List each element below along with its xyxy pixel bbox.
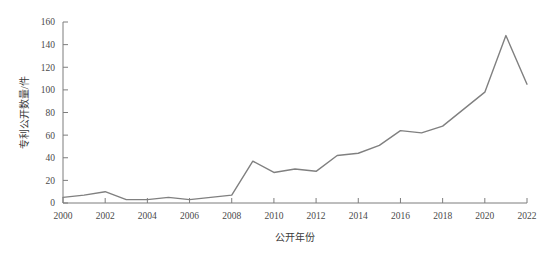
y-tick-label: 0 — [50, 198, 55, 208]
x-tick-label: 2018 — [433, 211, 452, 221]
x-tick-label: 2000 — [54, 211, 73, 221]
series-polyline — [63, 36, 527, 200]
chart-canvas: 020406080100120140160 200020022004200620… — [0, 0, 544, 258]
x-tick-label: 2004 — [138, 211, 157, 221]
y-tick-label: 100 — [41, 85, 56, 95]
y-tick-label: 40 — [46, 153, 56, 163]
x-tick-label: 2010 — [264, 211, 283, 221]
x-tick-label: 2020 — [475, 211, 494, 221]
y-tick-label: 120 — [41, 63, 56, 73]
x-tick-label: 2012 — [307, 211, 326, 221]
x-tick-label: 2022 — [518, 211, 537, 221]
y-tick-label: 20 — [46, 176, 56, 186]
y-tick-label: 160 — [41, 17, 56, 27]
y-axis-title: 专利公开数量/件 — [18, 76, 30, 149]
x-tick-label: 2006 — [180, 211, 199, 221]
y-tick-label: 140 — [41, 40, 56, 50]
y-axis: 020406080100120140160 — [41, 17, 68, 208]
x-axis: 2000200220042006200820102012201420162018… — [54, 198, 537, 221]
x-tick-label: 2002 — [96, 211, 115, 221]
patent-disclosure-line-chart: 020406080100120140160 200020022004200620… — [0, 0, 544, 258]
x-tick-label: 2008 — [222, 211, 241, 221]
y-tick-label: 80 — [46, 108, 56, 118]
x-axis-title: 公开年份 — [275, 231, 315, 243]
x-tick-label: 2016 — [391, 211, 410, 221]
data-series-patent-count — [63, 36, 527, 200]
y-tick-label: 60 — [46, 131, 56, 141]
x-tick-label: 2014 — [349, 211, 368, 221]
